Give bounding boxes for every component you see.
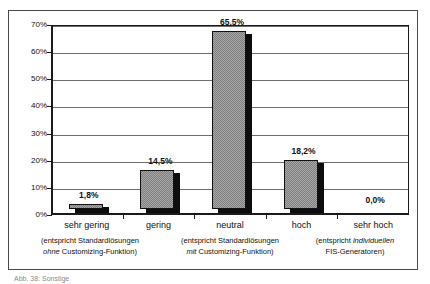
y-axis-tick-label: 50% — [31, 75, 47, 83]
bar-value-label: 18,2% — [292, 146, 316, 156]
group-annotation-line-1: (entspricht individuellen — [297, 235, 413, 246]
group-annotation-emphasis: mit — [186, 247, 196, 256]
group-annotation-emphasis: individuellen — [353, 236, 394, 245]
x-axis-category-labels: sehr geringgeringneutralhochsehr hoch — [51, 219, 409, 233]
x-axis-label-hoch: hoch — [266, 219, 338, 231]
bar-slot: 1,8% — [53, 26, 125, 213]
bar-slot: 14,5% — [125, 26, 197, 213]
bar-slot: 18,2% — [268, 26, 340, 213]
group-annotation-group-right: (entspricht individuellenFIS-Generatoren… — [297, 235, 413, 257]
x-axis-label-sehr-hoch: sehr hoch — [337, 219, 409, 231]
bar-sehr-hoch[interactable] — [355, 208, 395, 213]
y-axis-tick-label: 70% — [31, 21, 47, 29]
top-fragment-text: — — [18, 0, 26, 2]
y-axis-tick-label: 40% — [31, 102, 47, 110]
bar-gering[interactable] — [140, 169, 180, 213]
y-axis-tick-label: 30% — [31, 130, 47, 138]
y-axis-tick-label: 10% — [31, 184, 47, 192]
figure-frame: 0%10%20%30%40%50%60%70% 1,8%14,5%65,5%18… — [8, 10, 418, 270]
bar-slot: 65,5% — [196, 26, 268, 213]
bar-body — [212, 31, 246, 209]
bar-value-label: 0,0% — [366, 195, 385, 205]
plot-area: 1,8%14,5%65,5%18,2%0,0% — [51, 25, 409, 215]
bar-body — [140, 170, 174, 209]
group-annotation-line-2: ohne Customizing-Funktion) — [15, 246, 165, 257]
x-axis-label-sehr-gering: sehr gering — [51, 219, 123, 231]
x-axis-group-annotations: (entspricht Standardlösungenohne Customi… — [15, 235, 413, 267]
group-annotation-line-2: mit Customizing-Funktion) — [155, 246, 305, 257]
y-axis-tick-label: 20% — [31, 157, 47, 165]
figure-caption: Abb. 38: Sonstige — [14, 274, 414, 284]
y-axis-tick-label: 60% — [31, 48, 47, 56]
group-annotation-line-1: (entspricht Standardlösungen — [15, 235, 165, 246]
bar-hoch[interactable] — [284, 159, 324, 213]
bar-sehr-gering[interactable] — [69, 203, 109, 213]
group-annotation-line-1: (entspricht Standardlösungen — [155, 235, 305, 246]
x-axis-label-neutral: neutral — [194, 219, 266, 231]
bar-value-label: 1,8% — [79, 190, 98, 200]
bar-body — [69, 204, 103, 209]
x-axis-label-gering: gering — [123, 219, 195, 231]
group-annotation-group-middle: (entspricht Standardlösungenmit Customiz… — [155, 235, 305, 257]
y-axis-tick-label: 0% — [35, 211, 47, 219]
plot-inner: 1,8%14,5%65,5%18,2%0,0% — [53, 26, 408, 213]
group-annotation-emphasis: ohne — [43, 247, 60, 256]
group-annotation-group-left: (entspricht Standardlösungenohne Customi… — [15, 235, 165, 257]
y-axis-labels: 0%10%20%30%40%50%60%70% — [15, 25, 47, 215]
bar-value-label: 14,5% — [148, 156, 172, 166]
bar-value-label: 65,5% — [220, 17, 244, 27]
bar-body — [284, 160, 318, 209]
bar-neutral[interactable] — [212, 30, 252, 213]
top-cropped-text-fragment: — — [0, 0, 430, 8]
group-annotation-line-2: FIS-Generatoren) — [297, 246, 413, 257]
bar-slot: 0,0% — [339, 26, 411, 213]
